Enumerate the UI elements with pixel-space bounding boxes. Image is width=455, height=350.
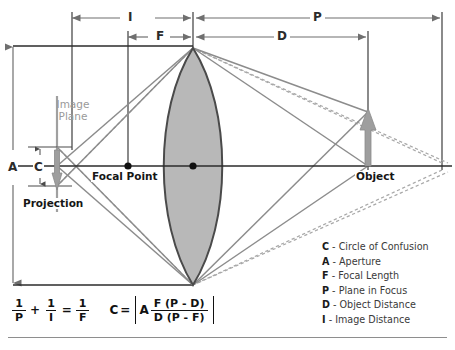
legend-key-C: C [322, 241, 329, 252]
lens-center-dot [189, 162, 196, 169]
fraction-denominator: D (P - F) [151, 310, 208, 323]
formula-factor-a: A [139, 303, 148, 317]
fraction-denominator: P [12, 310, 26, 323]
legend: C - Circle of Confusion A - Aperture F -… [322, 240, 452, 327]
legend-text-P: Plane in Focus [339, 285, 408, 296]
formula-area: 1 P + 1 I = 1 F C = A F (P - D) D (P - F… [10, 296, 217, 324]
fraction-numerator: 1 [12, 298, 26, 310]
operator-equals: = [120, 303, 130, 317]
legend-text-F: Focal Length [338, 270, 399, 281]
fraction-numerator: 1 [44, 298, 58, 310]
legend-item-I: I - Image Distance [322, 313, 452, 328]
operator-plus: + [30, 303, 40, 317]
dimension-label-P: P [310, 11, 325, 23]
legend-sep-P: - [332, 285, 335, 296]
absolute-bar-right [213, 296, 214, 324]
formula-circle-of-confusion: C = A F (P - D) D (P - F) [110, 296, 217, 324]
dimension-label-C: C [33, 159, 44, 175]
fraction-denominator: F [76, 310, 90, 323]
dimension-label-I: I [125, 11, 135, 23]
legend-key-I: I [322, 314, 326, 325]
operator-equals: = [62, 303, 72, 317]
legend-text-C: Circle of Confusion [339, 241, 429, 252]
fraction-numerator: 1 [76, 298, 90, 310]
absolute-bar-left [135, 296, 136, 324]
formula-thin-lens: 1 P + 1 I = 1 F [10, 298, 92, 323]
legend-key-A: A [322, 256, 329, 267]
legend-item-D: D - Object Distance [322, 298, 452, 313]
reference-verticals [57, 12, 442, 212]
legend-item-P: P - Plane in Focus [322, 284, 452, 299]
projection-label: Projection [22, 198, 84, 209]
image-plane-label-line1: Image [42, 98, 104, 110]
legend-sep-F: - [332, 270, 335, 281]
fraction-one-over-f: 1 F [76, 298, 90, 323]
image-plane-label: Image Plane [42, 98, 104, 123]
legend-key-P: P [322, 285, 329, 296]
legend-item-A: A - Aperture [322, 255, 452, 270]
legend-sep-C: - [332, 241, 335, 252]
legend-item-C: C - Circle of Confusion [322, 240, 452, 255]
legend-text-I: Image Distance [335, 314, 410, 325]
image-plane-label-line2: Plane [42, 110, 104, 122]
fraction-denominator: I [46, 310, 56, 323]
dimension-label-A: A [7, 159, 18, 175]
dimension-label-D: D [274, 30, 290, 42]
legend-sep-I: - [329, 314, 332, 325]
fraction-coc: F (P - D) D (P - F) [151, 298, 208, 323]
focal-point-label: Focal Point [91, 171, 159, 182]
fraction-one-over-i: 1 I [44, 298, 58, 323]
object-label: Object [355, 171, 395, 182]
legend-text-A: Aperture [339, 256, 381, 267]
fraction-numerator: F (P - D) [151, 298, 208, 310]
bottom-divider [8, 337, 447, 338]
dimension-label-F: F [153, 30, 167, 42]
legend-sep-A: - [333, 256, 336, 267]
legend-key-D: D [322, 299, 330, 310]
formula-lhs: C [110, 303, 119, 317]
legend-item-F: F - Focal Length [322, 269, 452, 284]
legend-text-D: Object Distance [340, 299, 416, 310]
legend-sep-D: - [333, 299, 336, 310]
legend-key-F: F [322, 270, 329, 281]
fraction-one-over-p: 1 P [12, 298, 26, 323]
diagram-canvas: I P F D A C Image Plane Focal Point Proj… [0, 0, 455, 350]
focal-point-dot [124, 162, 131, 169]
